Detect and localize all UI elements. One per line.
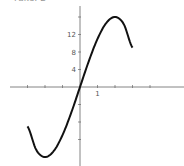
x-tick-label: 1: [95, 90, 99, 98]
y-tick-label: 4: [72, 66, 77, 74]
function-plot: 14812: [0, 0, 184, 166]
ticks: [28, 17, 151, 140]
y-tick-label: 8: [72, 49, 76, 57]
axes: [10, 6, 184, 166]
tick-labels: 14812: [67, 31, 100, 98]
y-tick-label: 12: [67, 31, 76, 39]
